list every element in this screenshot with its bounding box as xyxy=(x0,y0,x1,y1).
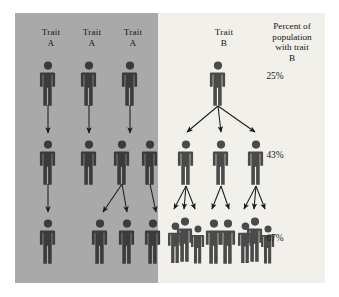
trait-a-column-label-1: Trait A xyxy=(37,27,65,48)
descent-arrow-trait-b xyxy=(218,106,255,132)
trait-a-column-label-3: Trait A xyxy=(119,27,147,48)
descent-arrow-trait-a xyxy=(150,184,156,212)
trait-a-column-label-2: Trait A xyxy=(78,27,106,48)
descent-arrow-trait-b xyxy=(187,106,218,132)
trait-b-column-label: Trait B xyxy=(210,27,238,48)
descent-arrow-trait-a xyxy=(122,184,127,212)
diagram-canvas: Trait ATrait ATrait ATrait BPercent of p… xyxy=(15,13,325,283)
descent-arrow-trait-a xyxy=(103,184,122,212)
descent-arrow-trait-b xyxy=(221,186,229,209)
percent-value-2: 43% xyxy=(255,150,295,160)
descent-arrow-trait-b xyxy=(256,186,265,209)
descent-arrow-trait-b xyxy=(212,186,221,209)
descent-arrow-trait-b xyxy=(186,186,195,209)
percent-value-3: 67% xyxy=(255,233,295,243)
percent-column-header: Percent of population with trait B xyxy=(253,21,325,63)
descent-arrow-trait-b xyxy=(218,106,221,132)
percent-value-1: 25% xyxy=(255,71,295,81)
